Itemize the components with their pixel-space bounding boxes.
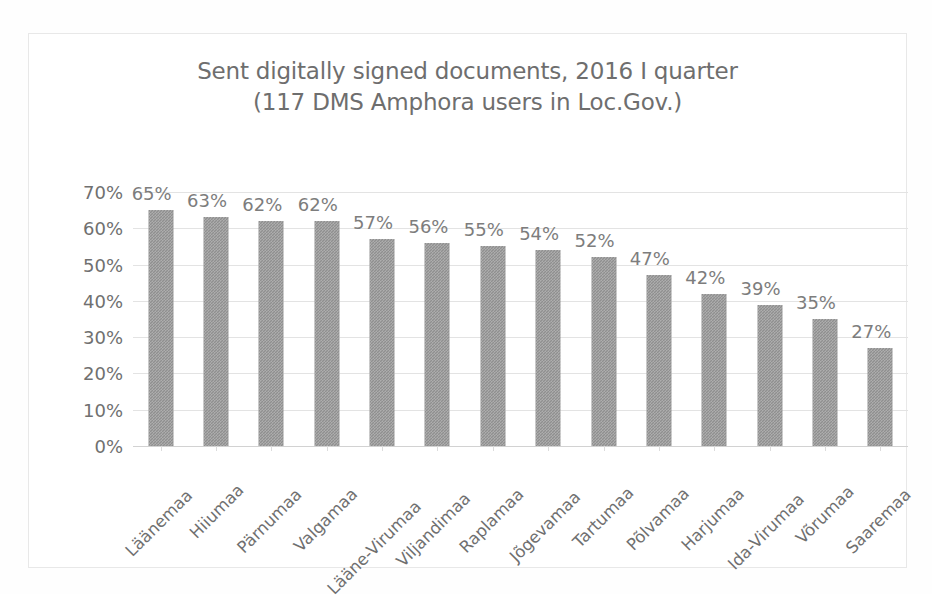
bar[interactable]	[702, 294, 727, 446]
x-axis-tick-mark	[770, 446, 771, 451]
chart-frame: Sent digitally signed documents, 2016 I …	[28, 33, 907, 568]
bar-slot: 52%Tartumaa	[576, 159, 631, 446]
bar-slot: 65%Läänemaa	[133, 159, 188, 446]
bar-value-label: 39%	[741, 278, 781, 299]
bar-slot: 39%Ida-Virumaa	[742, 159, 797, 446]
bar-value-label: 52%	[575, 230, 615, 251]
bar[interactable]	[204, 217, 229, 446]
bar[interactable]	[812, 319, 837, 446]
bar-value-label: 27%	[851, 321, 891, 342]
x-axis-tick-mark	[604, 446, 605, 451]
bar-slot: 54%Jõgevamaa	[521, 159, 576, 446]
bar-value-label: 54%	[519, 223, 559, 244]
bar-slot: 63%Hiiumaa	[188, 159, 243, 446]
bar-slot: 42%Harjumaa	[687, 159, 742, 446]
bar-value-label: 65%	[132, 183, 172, 204]
bar-value-label: 57%	[353, 212, 393, 233]
bar-value-label: 63%	[187, 190, 227, 211]
y-axis-tick-label: 40%	[83, 290, 123, 311]
bar[interactable]	[591, 257, 616, 446]
chart-title: Sent digitally signed documents, 2016 I …	[29, 56, 906, 118]
y-axis-tick-label: 30%	[83, 327, 123, 348]
x-axis-tick-mark	[327, 446, 328, 451]
bar[interactable]	[480, 246, 505, 446]
bar[interactable]	[370, 239, 395, 446]
x-axis-tick-mark	[493, 446, 494, 451]
y-axis-tick-label: 10%	[83, 399, 123, 420]
plot-area: 0%10%20%30%40%50%60%70% 65%Läänemaa63%Hi…	[133, 159, 908, 446]
x-axis-tick-mark	[382, 446, 383, 451]
bar-slot: 55%Raplamaa	[465, 159, 520, 446]
bar-slot: 27%Saaremaa	[853, 159, 908, 446]
bar-value-label: 47%	[630, 248, 670, 269]
bar-slot: 62%Valgamaa	[299, 159, 354, 446]
bars-group: 65%Läänemaa63%Hiiumaa62%Pärnumaa62%Valga…	[133, 159, 908, 446]
bar-value-label: 62%	[242, 194, 282, 215]
bar[interactable]	[536, 250, 561, 446]
bar[interactable]	[646, 275, 671, 446]
bar-slot: 35%Võrumaa	[797, 159, 852, 446]
chart-title-line-2: (117 DMS Amphora users in Loc.Gov.)	[29, 87, 906, 118]
bar-value-label: 42%	[685, 267, 725, 288]
bar[interactable]	[259, 221, 284, 446]
bar[interactable]	[314, 221, 339, 446]
x-axis-tick-mark	[271, 446, 272, 451]
y-axis-tick-label: 50%	[83, 254, 123, 275]
x-axis-tick-mark	[659, 446, 660, 451]
bar[interactable]	[757, 305, 782, 447]
y-axis-tick-label: 20%	[83, 363, 123, 384]
bar[interactable]	[868, 348, 893, 446]
x-axis-category-label-text: Läänemaa	[121, 486, 195, 560]
y-axis-tick-label: 60%	[83, 218, 123, 239]
x-axis-tick-mark	[216, 446, 217, 451]
x-axis-tick-mark	[161, 446, 162, 451]
x-axis-tick-mark	[437, 446, 438, 451]
chart-title-line-1: Sent digitally signed documents, 2016 I …	[29, 56, 906, 87]
x-axis-tick-mark	[825, 446, 826, 451]
axis-baseline	[133, 446, 908, 447]
y-axis-tick-label: 70%	[83, 182, 123, 203]
bar-value-label: 62%	[298, 194, 338, 215]
bar-slot: 57%Lääne-Virumaa	[354, 159, 409, 446]
bar-value-label: 55%	[464, 219, 504, 240]
bar[interactable]	[425, 243, 450, 446]
bar-slot: 47%Põlvamaa	[631, 159, 686, 446]
x-axis-tick-mark	[880, 446, 881, 451]
bar-value-label: 56%	[408, 216, 448, 237]
bar-slot: 56%Viljandimaa	[410, 159, 465, 446]
bar[interactable]	[148, 210, 173, 446]
y-axis-tick-label: 0%	[94, 436, 123, 457]
bar-slot: 62%Pärnumaa	[244, 159, 299, 446]
bar-value-label: 35%	[796, 292, 836, 313]
x-axis-tick-mark	[548, 446, 549, 451]
x-axis-tick-mark	[714, 446, 715, 451]
